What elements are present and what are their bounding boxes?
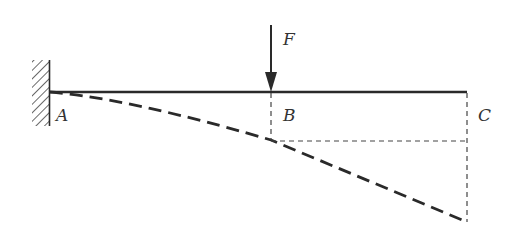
point-b-label: B [282,105,296,125]
deflection-curve [50,92,467,222]
fixed-support [32,60,50,126]
projection-lines [271,93,467,222]
point-a-label: A [54,105,68,125]
point-c-label: C [478,105,491,125]
force-label: F [282,29,296,49]
cantilever-diagram: F A B C [0,0,512,240]
force-arrow-icon [265,25,277,92]
